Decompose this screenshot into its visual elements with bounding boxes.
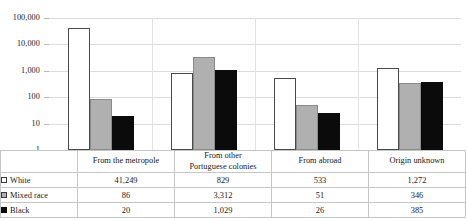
table-header-row: From the metropoleFrom otherPortuguese c… xyxy=(1,151,466,173)
bar-black[interactable] xyxy=(215,70,237,150)
table-body: White41,2498295331,272Mixed race863,3125… xyxy=(1,173,466,218)
bar-white[interactable] xyxy=(171,73,193,150)
y-tick-label: 10 xyxy=(32,119,40,127)
bar-white[interactable] xyxy=(377,68,399,150)
bar-group xyxy=(49,18,152,150)
data-table-wrap: From the metropoleFrom otherPortuguese c… xyxy=(0,150,465,218)
table-corner-cell xyxy=(1,151,78,173)
table-row: White41,2498295331,272 xyxy=(1,173,466,188)
legend-row-header: White xyxy=(1,173,78,188)
table-cell-value: 533 xyxy=(272,173,369,188)
table-col-header: From abroad xyxy=(272,151,369,173)
bar-gray[interactable] xyxy=(399,83,421,150)
bar-group xyxy=(358,18,461,150)
legend-swatch-white-icon xyxy=(1,177,7,183)
legend-swatch-gray-icon xyxy=(1,192,7,198)
bar-gray[interactable] xyxy=(193,57,215,150)
y-axis: 1101001,00010,000100,000 xyxy=(0,0,44,158)
legend-swatch-black-icon xyxy=(1,207,7,213)
bar-black[interactable] xyxy=(421,82,443,150)
table-col-header: From otherPortuguese colonies xyxy=(175,151,272,173)
table-cell-value: 829 xyxy=(175,173,272,188)
table-col-header-line: Origin unknown xyxy=(389,156,444,165)
table-cell-value: 346 xyxy=(369,188,466,203)
table-cell-value: 41,249 xyxy=(78,173,175,188)
legend-label: Black xyxy=(10,206,30,215)
table-col-header: From the metropole xyxy=(78,151,175,173)
y-tick-label: 1,000 xyxy=(21,67,40,75)
legend-label: Mixed race xyxy=(10,191,48,200)
table-cell-value: 51 xyxy=(272,188,369,203)
legend-row-header: Mixed race xyxy=(1,188,78,203)
bar-group xyxy=(255,18,358,150)
data-table: From the metropoleFrom otherPortuguese c… xyxy=(0,150,466,218)
bar-white[interactable] xyxy=(274,78,296,150)
table-col-header: Origin unknown xyxy=(369,151,466,173)
table-row: Black201,02926385 xyxy=(1,203,466,218)
bar-black[interactable] xyxy=(318,113,340,150)
y-tick-label: 100,000 xyxy=(13,14,40,22)
bar-group xyxy=(152,18,255,150)
chart-plot-area: 1101001,00010,000100,000 xyxy=(0,0,465,158)
table-cell-value: 385 xyxy=(369,203,466,218)
plot-canvas xyxy=(49,18,461,150)
table-cell-value: 1,272 xyxy=(369,173,466,188)
table-col-header-line: Portuguese colonies xyxy=(175,162,271,173)
bar-groups xyxy=(49,18,461,150)
bar-white[interactable] xyxy=(68,28,90,150)
bar-gray[interactable] xyxy=(90,99,112,150)
table-col-header-line: From other xyxy=(204,151,241,160)
table-cell-value: 1,029 xyxy=(175,203,272,218)
table-col-header-line: From the metropole xyxy=(93,156,160,165)
table-col-header-line: From abroad xyxy=(298,156,341,165)
table-row: Mixed race863,31251346 xyxy=(1,188,466,203)
legend-row-header: Black xyxy=(1,203,78,218)
bar-gray[interactable] xyxy=(296,105,318,150)
table-cell-value: 20 xyxy=(78,203,175,218)
legend-label: White xyxy=(10,176,30,185)
table-cell-value: 3,312 xyxy=(175,188,272,203)
table-cell-value: 86 xyxy=(78,188,175,203)
y-tick-label: 100 xyxy=(27,93,40,101)
table-cell-value: 26 xyxy=(272,203,369,218)
y-tick-label: 10,000 xyxy=(17,40,40,48)
bar-black[interactable] xyxy=(112,116,134,150)
